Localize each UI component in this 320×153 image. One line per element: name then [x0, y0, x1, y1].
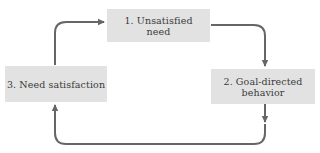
node-label-line: need [147, 26, 171, 37]
arrow-right-down-icon [211, 25, 265, 66]
node-goal-directed-behavior: 2. Goal-directed behavior [211, 69, 315, 104]
arrow-up-right-icon [55, 22, 104, 65]
need-cycle-diagram: 1. Unsatisfied need 2. Goal-directed beh… [0, 0, 320, 153]
node-label-line: 3. Need satisfaction [7, 79, 105, 90]
node-need-satisfaction: 3. Need satisfaction [5, 66, 107, 102]
node-label-line: behavior [242, 87, 285, 98]
node-label-line: 1. Unsatisfied [124, 15, 192, 26]
node-unsatisfied-need: 1. Unsatisfied need [107, 9, 210, 42]
node-label-line: 2. Goal-directed [223, 76, 302, 87]
bottom-return-line [55, 105, 265, 144]
